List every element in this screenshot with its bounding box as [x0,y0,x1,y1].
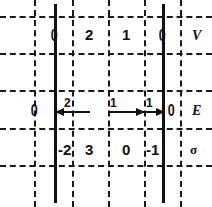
sigma-value-1: -2 [58,142,71,157]
potential-boundary-zero-right: 0 [159,28,165,44]
arrow-head-left [55,108,64,116]
sigma-value-3: 0 [122,142,130,157]
field-boundary-zero-left: 0 [31,103,37,119]
field-arrow-right-a-label: 1 [110,97,117,109]
potential-boundary-zero-left: 0 [51,28,57,44]
gridline-vertical [72,0,74,207]
gridline-vertical [180,0,182,207]
field-boundary-zero-right: 0 [168,103,174,119]
figure-canvas: 0 2 1 0 V 0 2 1 1 0 E -2 3 0 -1 σ [0,0,212,207]
arrow-head-right [156,108,165,116]
field-arrow-left-label: 2 [64,97,71,109]
sigma-value-2: 3 [85,142,93,157]
row-label-potential: V [192,29,201,43]
sigma-value-4: -1 [146,142,159,157]
row-label-sigma: σ [190,143,197,156]
potential-value-region-1: 2 [85,27,93,42]
field-arrow-right-b-label: 1 [146,97,153,109]
potential-value-region-2: 1 [122,27,130,42]
row-label-field: E [192,104,201,118]
